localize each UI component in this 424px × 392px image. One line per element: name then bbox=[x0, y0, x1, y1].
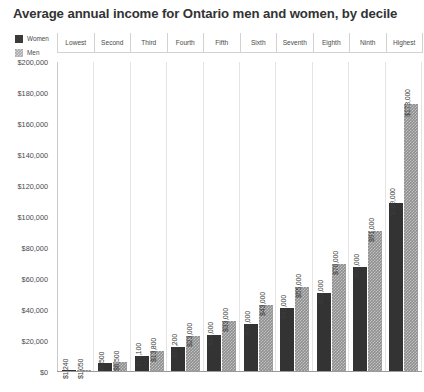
bar-women-highest[interactable]: $109,000 bbox=[389, 203, 403, 372]
bar-women-fourth[interactable]: $16,200 bbox=[171, 347, 185, 372]
bar-men-third[interactable]: $13,800 bbox=[150, 351, 164, 372]
bar-value-label: $10,100 bbox=[135, 343, 142, 367]
category-label-second: Second bbox=[95, 33, 132, 53]
bar-women-fifth[interactable]: $24,000 bbox=[207, 335, 221, 372]
y-axis-tick-label: $160,000 bbox=[18, 120, 48, 129]
bar-wrap: $173,000 bbox=[404, 62, 418, 372]
decile-group-seventh: $41,000$55,000 bbox=[276, 62, 312, 372]
bar-wrap: $109,000 bbox=[389, 62, 403, 372]
decile-group-second: $5,500$6,500 bbox=[94, 62, 130, 372]
bar-wrap: $68,000 bbox=[353, 62, 367, 372]
legend-label-women: Women bbox=[27, 35, 49, 43]
bar-men-ninth[interactable]: $91,000 bbox=[368, 231, 382, 372]
bar-value-label: $31,000 bbox=[244, 311, 251, 335]
bar-men-highest[interactable]: $173,000 bbox=[404, 104, 418, 372]
bar-wrap: $10,100 bbox=[135, 62, 149, 372]
bar-women-third[interactable]: $10,100 bbox=[135, 356, 149, 372]
category-label-third: Third bbox=[131, 33, 168, 53]
bar-wrap: $55,000 bbox=[295, 62, 309, 372]
bar-value-label: $109,000 bbox=[389, 188, 396, 216]
y-axis-tick-label: $20,000 bbox=[22, 337, 48, 346]
plot-area: $1,240$1,050$5,500$6,500$10,100$13,800$1… bbox=[57, 62, 422, 372]
bar-wrap: $6,500 bbox=[113, 62, 127, 372]
bar-men-fourth[interactable]: $23,000 bbox=[186, 336, 200, 372]
category-label-fifth: Fifth bbox=[204, 33, 241, 53]
y-axis-tick-label: $100,000 bbox=[18, 213, 48, 222]
bar-value-label: $91,000 bbox=[368, 218, 375, 242]
bar-value-label: $5,500 bbox=[98, 352, 105, 372]
y-axis-tick-label: $60,000 bbox=[22, 275, 48, 284]
bar-wrap: $16,200 bbox=[171, 62, 185, 372]
bar-value-label: $16,200 bbox=[171, 334, 178, 358]
bar-value-label: $68,000 bbox=[353, 254, 360, 278]
category-label-lowest: Lowest bbox=[58, 33, 95, 53]
x-axis-baseline bbox=[57, 371, 422, 372]
bar-value-label: $51,000 bbox=[317, 280, 324, 304]
bar-wrap: $23,000 bbox=[186, 62, 200, 372]
bar-women-eighth[interactable]: $51,000 bbox=[317, 293, 331, 372]
bar-value-label: $1,050 bbox=[77, 359, 84, 379]
bar-wrap: $24,000 bbox=[207, 62, 221, 372]
bar-value-label: $13,800 bbox=[150, 338, 157, 362]
legend-item-women[interactable]: Women bbox=[15, 33, 63, 45]
chart-title: Average annual income for Ontario men an… bbox=[13, 6, 413, 21]
bar-value-label: $6,500 bbox=[113, 351, 120, 371]
bar-value-label: $33,000 bbox=[222, 308, 229, 332]
decile-group-sixth: $31,000$43,000 bbox=[240, 62, 276, 372]
category-label-highest: Highest bbox=[387, 33, 424, 53]
bar-value-label: $24,000 bbox=[207, 322, 214, 346]
category-label-fourth: Fourth bbox=[168, 33, 205, 53]
bar-wrap: $33,000 bbox=[222, 62, 236, 372]
bar-men-sixth[interactable]: $43,000 bbox=[259, 305, 273, 372]
category-header-row: LowestSecondThirdFourthFifthSixthSeventh… bbox=[57, 33, 423, 53]
bar-wrap: $5,500 bbox=[98, 62, 112, 372]
bar-value-label: $41,000 bbox=[280, 296, 287, 320]
bar-women-sixth[interactable]: $31,000 bbox=[244, 324, 258, 372]
category-label-seventh: Seventh bbox=[277, 33, 314, 53]
bar-wrap: $70,000 bbox=[332, 62, 346, 372]
decile-group-ninth: $68,000$91,000 bbox=[349, 62, 385, 372]
decile-group-lowest: $1,240$1,050 bbox=[58, 62, 94, 372]
y-axis: $200,000$180,000$160,000$140,000$120,000… bbox=[0, 60, 52, 372]
women-swatch-icon bbox=[15, 35, 23, 43]
bar-value-label: $23,000 bbox=[186, 323, 193, 347]
y-axis-tick-label: $200,000 bbox=[18, 58, 48, 67]
y-axis-tick-label: $80,000 bbox=[22, 244, 48, 253]
bar-wrap: $41,000 bbox=[280, 62, 294, 372]
bar-value-label: $55,000 bbox=[295, 274, 302, 298]
bar-wrap: $13,800 bbox=[150, 62, 164, 372]
bar-wrap: $43,000 bbox=[259, 62, 273, 372]
decile-group-fourth: $16,200$23,000 bbox=[167, 62, 203, 372]
bar-women-ninth[interactable]: $68,000 bbox=[353, 267, 367, 372]
bar-wrap: $51,000 bbox=[317, 62, 331, 372]
category-label-sixth: Sixth bbox=[241, 33, 278, 53]
y-axis-tick-label: $180,000 bbox=[18, 89, 48, 98]
men-swatch-icon bbox=[15, 49, 23, 57]
bar-men-eighth[interactable]: $70,000 bbox=[332, 264, 346, 373]
legend-label-men: Men bbox=[27, 49, 39, 57]
bar-value-label: $70,000 bbox=[332, 251, 339, 275]
bar-wrap: $91,000 bbox=[368, 62, 382, 372]
decile-group-eighth: $51,000$70,000 bbox=[313, 62, 349, 372]
bar-value-label: $1,240 bbox=[62, 359, 69, 379]
bar-wrap: $1,050 bbox=[77, 62, 91, 372]
bar-value-label: $43,000 bbox=[259, 292, 266, 316]
y-axis-tick-label: $140,000 bbox=[18, 151, 48, 160]
y-axis-tick-label: $0 bbox=[40, 368, 48, 377]
bar-value-label: $173,000 bbox=[404, 89, 411, 117]
decile-group-fifth: $24,000$33,000 bbox=[204, 62, 240, 372]
bar-women-seventh[interactable]: $41,000 bbox=[280, 308, 294, 372]
category-label-ninth: Ninth bbox=[350, 33, 387, 53]
bar-wrap: $1,240 bbox=[62, 62, 76, 372]
decile-group-third: $10,100$13,800 bbox=[131, 62, 167, 372]
y-axis-tick-label: $120,000 bbox=[18, 182, 48, 191]
bar-men-fifth[interactable]: $33,000 bbox=[222, 321, 236, 372]
bar-men-seventh[interactable]: $55,000 bbox=[295, 287, 309, 372]
category-label-eighth: Eighth bbox=[314, 33, 351, 53]
decile-group-highest: $109,000$173,000 bbox=[386, 62, 422, 372]
bar-wrap: $31,000 bbox=[244, 62, 258, 372]
y-axis-tick-label: $40,000 bbox=[22, 306, 48, 315]
bar-series-container: $1,240$1,050$5,500$6,500$10,100$13,800$1… bbox=[58, 62, 422, 372]
